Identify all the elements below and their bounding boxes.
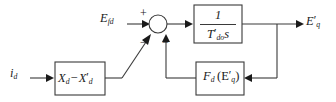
diagram-vector-layer [0, 0, 336, 102]
summing-junction-circle [149, 15, 167, 33]
summing-sign-minus-left: − [140, 36, 147, 48]
arrowhead-into-reactance-block [46, 74, 54, 82]
fraction-denominator: T′dos [196, 26, 240, 41]
label-saturation-function: Fd (E′q) [203, 70, 239, 83]
arrowhead-into-transfer-function [185, 20, 193, 28]
label-reactance-difference: Xd − X′d [58, 72, 93, 85]
arrowhead-output-eq [296, 20, 304, 28]
label-input-current: id [10, 67, 17, 80]
summing-sign-minus-right: − [162, 36, 169, 48]
fraction-bar [200, 24, 236, 25]
label-input-field-voltage: Efd [100, 12, 114, 25]
fraction-numerator: 1 [196, 9, 240, 23]
summing-sign-plus: + [140, 7, 147, 19]
label-output-voltage: E′q [306, 15, 320, 28]
transfer-function-fraction: 1 T′dos [196, 9, 240, 42]
block-diagram-canvas: Efd id E′q + − − Xd − X′d 1 T′dos Fd (E′… [0, 0, 336, 102]
arrowhead-into-fd-block [244, 74, 252, 82]
